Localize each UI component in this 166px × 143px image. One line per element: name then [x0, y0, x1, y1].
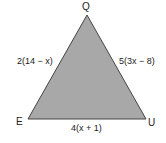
vertex-label-q: Q: [82, 2, 90, 12]
vertex-label-u: U: [148, 118, 155, 128]
triangle-qeu: [28, 15, 146, 119]
triangle-figure: [0, 0, 166, 143]
side-label-eu: 4(x + 1): [71, 124, 102, 133]
side-label-qu: 5(3x − 8): [119, 57, 155, 66]
side-label-qe: 2(14 − x): [17, 57, 53, 66]
vertex-label-e: E: [16, 117, 23, 127]
